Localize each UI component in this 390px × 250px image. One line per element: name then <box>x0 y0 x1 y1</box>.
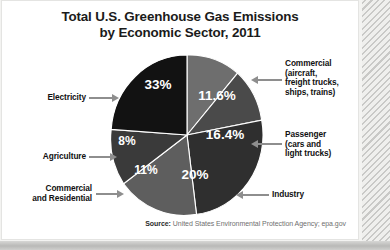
leader-line-industry <box>243 194 269 196</box>
source-text: United States Environmental Protection A… <box>173 220 346 227</box>
callout-commercial-residential: Commercial and Residential <box>12 184 92 203</box>
arrowhead-electricity <box>112 94 119 102</box>
leader-line-agriculture <box>89 156 111 158</box>
callout-passenger-line2: (cars and <box>285 139 321 149</box>
page-bottom-band <box>0 241 390 250</box>
pie-slice-electricity <box>111 55 187 135</box>
arrowhead-agriculture <box>110 153 117 161</box>
arrowhead-commercial-transport <box>251 76 258 84</box>
pie-value-industry: 20% <box>181 167 208 182</box>
scanned-page-background: Total U.S. Greenhouse Gas Emissions by E… <box>0 0 390 250</box>
callout-commercial-transport: Commercial (aircraft, freight trucks, sh… <box>285 59 359 97</box>
pie-value-agriculture: 8% <box>118 134 136 148</box>
source-label: Source: <box>145 220 171 227</box>
callout-passenger: Passenger (cars and light trucks) <box>285 130 357 159</box>
callout-passenger-line1: Passenger <box>285 129 326 139</box>
callout-commercial-transport-line3: freight trucks, <box>285 77 339 87</box>
leader-line-commercial-transport <box>258 79 282 81</box>
callout-electricity-label: Electricity <box>47 92 86 102</box>
arrowhead-industry <box>236 191 243 199</box>
chart-title: Total U.S. Greenhouse Gas Emissions by E… <box>2 9 358 40</box>
pie-value-commercial-residential: 11% <box>134 163 158 177</box>
leader-line-commercial-residential <box>96 193 118 195</box>
callout-electricity: Electricity <box>16 93 86 103</box>
source-line: Source: United States Environmental Prot… <box>145 220 346 227</box>
callout-commercial-transport-line4: ships, trains) <box>285 87 335 97</box>
page-edge-hatching <box>362 0 390 244</box>
chart-title-line1: Total U.S. Greenhouse Gas Emissions <box>61 9 298 24</box>
callout-agriculture-label: Agriculture <box>43 151 86 161</box>
leader-line-passenger <box>258 143 282 145</box>
pie-value-passenger: 16.4% <box>206 127 244 142</box>
callout-passenger-line3: light trucks) <box>285 148 331 158</box>
pie-value-electricity: 33% <box>144 77 171 92</box>
chart-title-line2: by Economic Sector, 2011 <box>2 25 358 41</box>
arrowhead-commercial-residential <box>117 190 124 198</box>
callout-agriculture: Agriculture <box>10 152 86 162</box>
leader-line-electricity <box>89 97 113 99</box>
arrowhead-passenger <box>251 140 258 148</box>
callout-commercial-transport-line2: (aircraft, <box>285 68 317 78</box>
callout-commercial-residential-line1: Commercial <box>46 183 93 193</box>
callout-industry: Industry <box>272 190 332 200</box>
callout-commercial-transport-line1: Commercial <box>285 58 332 68</box>
callout-industry-label: Industry <box>272 189 304 199</box>
figure-card: Total U.S. Greenhouse Gas Emissions by E… <box>2 1 358 239</box>
callout-commercial-residential-line2: and Residential <box>32 193 92 203</box>
pie-value-commercial-transport: 11.6% <box>198 88 236 103</box>
